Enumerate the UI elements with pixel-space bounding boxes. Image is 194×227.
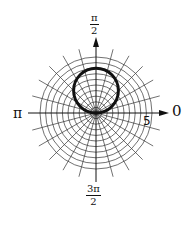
grid-spoke (96, 49, 113, 113)
grid-spoke (96, 113, 143, 160)
grid-spoke (96, 80, 153, 113)
fraction-numerator: π (90, 13, 99, 25)
grid-spoke (96, 113, 129, 170)
fraction-denominator: 2 (91, 25, 97, 36)
fraction-numerator: 3π (86, 184, 101, 196)
axis-label-pi: π (13, 106, 22, 120)
grid-spoke (49, 113, 96, 160)
polar-axes (28, 37, 169, 182)
grid-spoke (96, 113, 113, 177)
grid-spoke (79, 113, 96, 177)
fraction-denominator: 2 (90, 196, 96, 207)
axis-label-pi-over-2: π 2 (90, 13, 99, 36)
grid-spoke (32, 113, 96, 130)
axis-label-3pi-over-2: 3π 2 (86, 184, 101, 207)
tick-label-5: 5 (143, 115, 151, 127)
grid-spoke (79, 49, 96, 113)
grid-spoke (63, 113, 96, 170)
arrow-up-icon (93, 37, 99, 47)
axis-label-zero: 0 (172, 104, 182, 119)
grid-spoke (39, 80, 96, 113)
grid-spoke (39, 113, 96, 146)
arrow-right-icon (159, 110, 169, 116)
